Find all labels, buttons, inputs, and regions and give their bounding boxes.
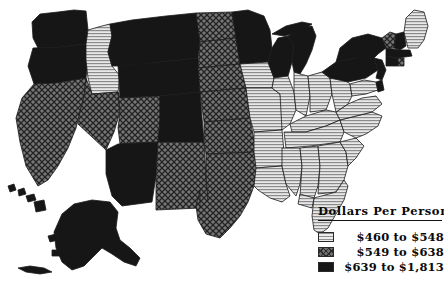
state-or <box>28 44 88 84</box>
state-md <box>350 80 378 96</box>
legend-item: $549 to $638 <box>318 245 444 259</box>
state-nd <box>196 12 236 42</box>
state-ut <box>118 92 160 144</box>
state-ri <box>398 58 404 66</box>
state-in <box>294 72 310 116</box>
state-mt <box>108 13 200 66</box>
state-al <box>300 146 320 198</box>
state-ca <box>16 78 86 186</box>
state-ia <box>240 62 274 88</box>
state-sd <box>198 38 240 68</box>
state-me <box>404 10 428 48</box>
legend-item-label: $639 to $1,813 <box>334 260 444 274</box>
legend-item-label: $549 to $638 <box>334 245 444 259</box>
state-pa <box>322 58 378 82</box>
state-ny <box>336 34 386 62</box>
state-wi <box>268 36 294 78</box>
state-hi-4 <box>34 200 46 212</box>
legend-item: $460 to $548 <box>318 230 444 244</box>
state-hi-1 <box>8 184 16 192</box>
legend-title: Dollars Per Person <box>318 204 442 221</box>
legend-item: $639 to $1,813 <box>318 260 444 274</box>
state-co <box>158 92 204 144</box>
choropleth-map-page: Dollars Per Person $460 to $548 $549 to … <box>0 0 444 290</box>
state-nh <box>394 32 406 50</box>
state-ak <box>54 200 140 270</box>
legend-item-label: $460 to $548 <box>334 230 444 244</box>
legend-swatch-icon <box>318 232 334 242</box>
state-ne <box>198 64 246 92</box>
state-hi-3 <box>26 194 36 202</box>
state-ct <box>386 56 398 66</box>
state-oh <box>308 72 332 112</box>
state-hi-2 <box>18 188 26 196</box>
state-ks <box>200 88 250 122</box>
legend-items: $460 to $548 $549 to $638 $639 to $1,813 <box>318 230 444 274</box>
state-ak-aleutians <box>18 266 52 274</box>
state-az <box>106 142 158 206</box>
state-wa <box>32 10 88 48</box>
state-mo <box>246 88 284 132</box>
legend-swatch-icon <box>318 262 334 272</box>
legend-swatch-icon <box>318 247 334 257</box>
map-legend: Dollars Per Person $460 to $548 $549 to … <box>318 204 444 275</box>
state-ok <box>204 118 256 154</box>
state-ar <box>254 130 284 168</box>
state-ak-island-2 <box>52 250 60 256</box>
